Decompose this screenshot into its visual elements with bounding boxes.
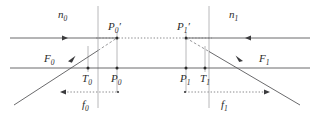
oblique-ray-right-dashed — [186, 38, 209, 52]
arrow-upper-right-icon — [245, 35, 251, 40]
label-P1-subscript: 1 — [187, 78, 191, 87]
label-P1-prime: P1′ — [176, 20, 190, 35]
label-F1-subscript: 1 — [266, 58, 270, 67]
label-P0-prime: P0′ — [107, 20, 121, 35]
label-f0: f0 — [82, 98, 89, 113]
label-P0-prime-mark: ′ — [118, 20, 121, 32]
label-f1: f1 — [221, 98, 228, 113]
label-f0-subscript: 0 — [85, 104, 89, 113]
f1-startpoint-dot — [184, 91, 186, 93]
label-n1: n1 — [229, 8, 238, 23]
label-T1: T1 — [200, 72, 210, 87]
arrow-oblique-left-icon — [68, 56, 76, 63]
f1-arrow-right-icon — [264, 90, 270, 95]
dot-P1 — [185, 67, 188, 70]
optical-diagram-figure: n0 n1 P0′ P1′ F0 F1 T0 P0 — [0, 0, 320, 114]
label-T1-subscript: 1 — [206, 78, 210, 87]
label-F0-subscript: 0 — [51, 58, 55, 67]
dot-P0-prime — [116, 37, 119, 40]
label-F1: F1 — [258, 52, 269, 67]
label-n1-subscript: 1 — [235, 14, 239, 23]
label-n0: n0 — [58, 8, 68, 23]
arrow-upper-left-icon — [62, 35, 68, 40]
label-n0-subscript: 0 — [64, 14, 68, 23]
label-F0: F0 — [43, 52, 55, 67]
label-P0-subscript: 0 — [118, 78, 122, 87]
label-P1: P1 — [179, 72, 190, 87]
oblique-ray-left-dashed — [98, 38, 117, 51]
label-T0-subscript: 0 — [88, 78, 92, 87]
dot-T1 — [204, 67, 207, 70]
label-P1-prime-mark: ′ — [187, 20, 190, 32]
label-T0: T0 — [82, 72, 92, 87]
f0-arrow-left-icon — [60, 90, 66, 95]
optics-svg-canvas: n0 n1 P0′ P1′ F0 F1 T0 P0 — [0, 0, 320, 114]
f0-endpoint-dot — [117, 91, 119, 93]
dot-T0 — [87, 67, 90, 70]
label-f1-subscript: 1 — [224, 104, 228, 113]
dot-P0 — [116, 67, 119, 70]
arrow-oblique-right-icon — [236, 56, 244, 62]
label-P0: P0 — [110, 72, 122, 87]
oblique-ray-right — [209, 52, 300, 106]
dot-P1-prime — [185, 37, 188, 40]
